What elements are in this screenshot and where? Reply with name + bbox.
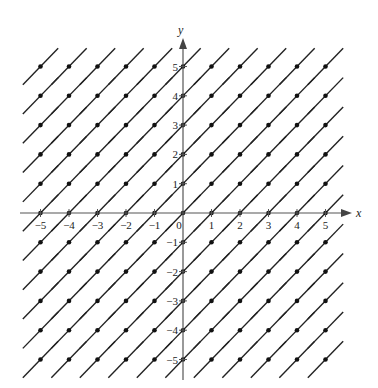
y-tick-label: −3 [166,295,178,307]
x-tick-label: −1 [149,219,161,231]
lattice-point [38,328,43,333]
lattice-point [95,269,100,274]
lattice-point [38,64,43,69]
lattice-point [67,152,72,157]
lattice-point [295,181,300,186]
lattice-point [209,299,214,304]
lattice-point [38,357,43,362]
lattice-point [238,123,243,128]
lattice-point [323,64,328,69]
lattice-point [95,357,100,362]
lattice-point [323,357,328,362]
lattice-point [238,152,243,157]
y-tick-label: 1 [173,178,179,190]
lattice-point [152,328,157,333]
lattice-point [295,328,300,333]
direction-field-plot: −5−4−3−2−101234554321−1−2−3−4−5 x y [0,0,378,388]
y-tick-label: 2 [173,148,179,160]
lattice-point [152,94,157,99]
lattice-point [152,123,157,128]
lattice-point [209,152,214,157]
lattice-point [67,299,72,304]
lattice-point [209,123,214,128]
x-tick-label: 1 [209,219,215,231]
lattice-point [152,240,157,245]
lattice-point [295,269,300,274]
lattice-point [152,152,157,157]
lattice-point [67,181,72,186]
lattice-point [295,94,300,99]
lattice-point [209,94,214,99]
lattice-point [295,240,300,245]
lattice-point [295,357,300,362]
lattice-point [152,64,157,69]
lattice-point [124,94,129,99]
x-tick-label: −5 [35,219,47,231]
lattice-point [95,328,100,333]
lattice-point [238,181,243,186]
x-tick-label: −4 [63,219,75,231]
lattice-point [95,240,100,245]
lattice-point [124,152,129,157]
y-tick-label: 5 [173,61,179,73]
lattice-point [266,123,271,128]
lattice-point [238,299,243,304]
lattice-point [266,299,271,304]
x-tick-label: 2 [237,219,243,231]
lattice-point [266,181,271,186]
lattice-point [209,181,214,186]
lattice-point [209,64,214,69]
lattice-point [266,240,271,245]
lattice-point [266,94,271,99]
lattice-point [124,123,129,128]
lattice-point [323,299,328,304]
x-tick-label: 0 [176,219,182,231]
lattice-point [238,328,243,333]
lattice-point [124,299,129,304]
lattice-point [95,123,100,128]
lattice-point [266,152,271,157]
lattice-point [323,94,328,99]
lattice-point [209,269,214,274]
lattice-point [238,357,243,362]
lattice-point [238,64,243,69]
y-tick-label: −2 [166,266,178,278]
y-tick-label: −4 [166,324,178,336]
lattice-point [38,240,43,245]
y-tick-label: 3 [173,119,179,131]
lattice-point [323,181,328,186]
x-axis-label: x [355,206,362,220]
lattice-point [67,94,72,99]
lattice-point [209,357,214,362]
lattice-point [209,328,214,333]
x-axis-arrow-icon [341,209,352,217]
lattice-point [323,152,328,157]
lattice-point [266,64,271,69]
lattice-point [209,240,214,245]
x-tick-label: 3 [266,219,272,231]
lattice-point [95,181,100,186]
lattice-point [124,181,129,186]
y-axis-arrow-icon [179,38,187,49]
y-tick-label: −1 [166,236,178,248]
lattice-point [124,328,129,333]
y-axis-label: y [177,23,184,37]
lattice-point [38,152,43,157]
lattice-point [238,240,243,245]
lattice-point [67,357,72,362]
lattice-point [238,94,243,99]
lattice-point [38,269,43,274]
lattice-point [67,269,72,274]
y-tick-label: −5 [166,354,178,366]
lattice-point [124,64,129,69]
lattice-point [95,299,100,304]
lattice-point [67,240,72,245]
x-tick-label: 5 [323,219,329,231]
lattice-point [238,269,243,274]
lattice-point [152,181,157,186]
y-tick-label: 4 [173,90,179,102]
lattice-point [124,357,129,362]
x-tick-label: −3 [92,219,104,231]
lattice-point [295,299,300,304]
lattice-point [323,328,328,333]
